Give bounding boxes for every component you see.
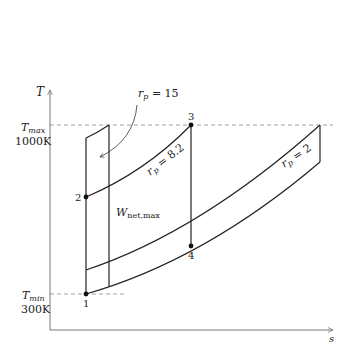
rp2-heat-addition <box>86 125 320 270</box>
axes: T s <box>36 85 334 344</box>
tmax-label: Tmax <box>21 121 46 135</box>
s-axis-label: s <box>329 333 334 344</box>
state-point-3 <box>189 123 194 128</box>
rp8-2-heat-addition <box>86 125 191 197</box>
low-pressure-line <box>86 162 320 294</box>
state-label-1: 1 <box>83 298 89 309</box>
ts-diagram: T s Tmax 1000K Tmin 300K 1 2 3 4 <box>0 0 348 353</box>
state-label-2: 2 <box>75 192 81 203</box>
state-label-3: 3 <box>188 111 194 122</box>
state-point-1 <box>84 292 89 297</box>
rp15-pointer-arrow <box>100 105 137 157</box>
tmin-label: Tmin <box>22 289 45 303</box>
state-point-4 <box>189 244 194 249</box>
state-label-4: 4 <box>188 250 194 261</box>
rp15-heat-addition <box>86 125 109 138</box>
rp15-label: rp = 15 <box>138 87 179 101</box>
state-point-2 <box>84 195 89 200</box>
wnet-max-label: Wnet,max <box>116 206 160 220</box>
tmin-value: 300K <box>21 303 51 316</box>
tmax-value: 1000K <box>15 135 52 148</box>
t-axis-label: T <box>36 85 45 99</box>
